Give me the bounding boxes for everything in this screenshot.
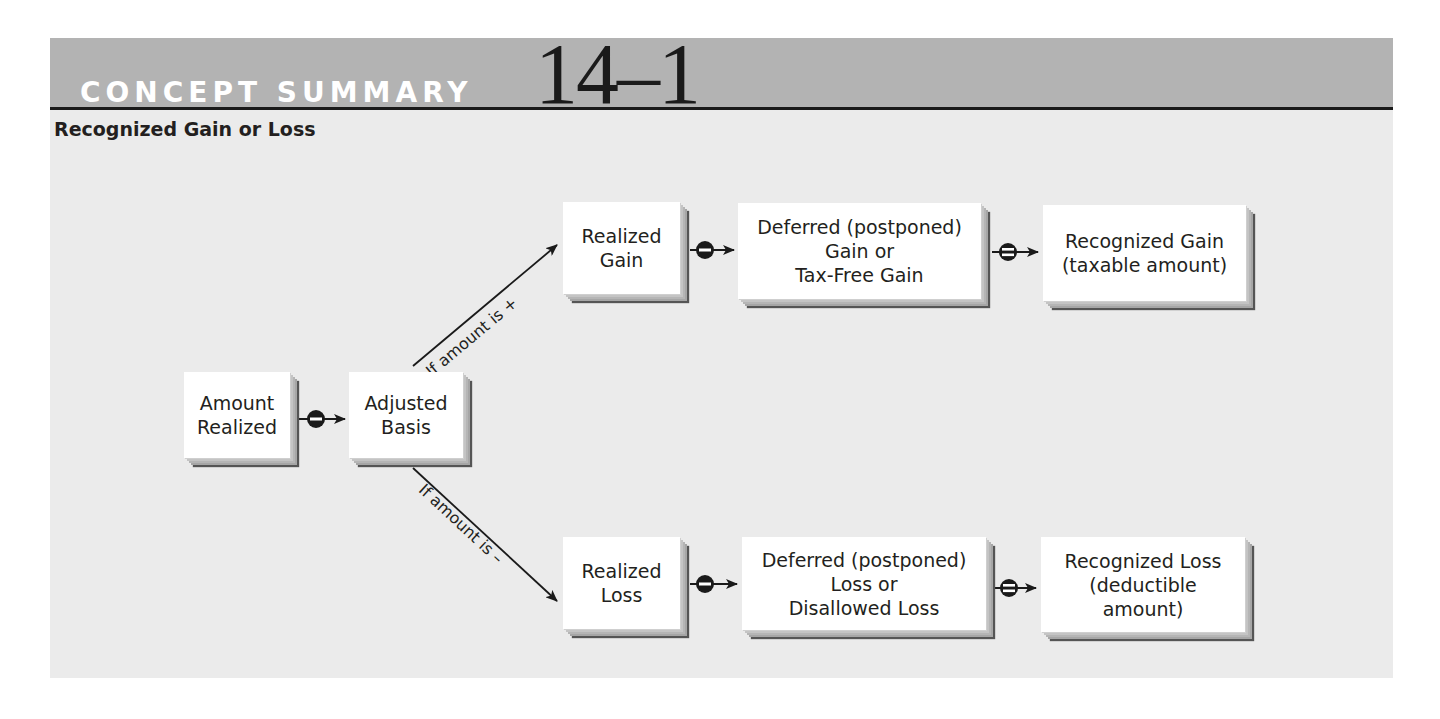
node-recognized-loss: Recognized Loss (deductible amount)	[1041, 537, 1245, 632]
node-deferred-loss: Deferred (postponed) Loss or Disallowed …	[742, 537, 986, 630]
minus-icon	[699, 583, 711, 586]
equals-operator-1	[992, 243, 1038, 261]
node-adjusted-basis: Adjusted Basis	[349, 372, 463, 458]
minus-icon	[310, 418, 322, 421]
node-label: Adjusted Basis	[364, 391, 447, 439]
node-label: Deferred (postponed) Loss or Disallowed …	[762, 548, 967, 620]
equals-icon	[1003, 584, 1015, 587]
node-realized-loss: Realized Loss	[563, 537, 680, 629]
node-label: Deferred (postponed) Gain or Tax-Free Ga…	[757, 215, 962, 287]
minus-icon	[699, 249, 711, 252]
node-deferred-gain: Deferred (postponed) Gain or Tax-Free Ga…	[738, 203, 981, 299]
node-amount-realized: Amount Realized	[184, 372, 290, 458]
equals-operator-2	[995, 579, 1036, 597]
minus-operator-1	[298, 410, 345, 428]
node-label: Recognized Loss (deductible amount)	[1065, 549, 1222, 621]
minus-operator-2	[690, 241, 734, 259]
equals-icon	[1002, 248, 1014, 251]
node-label: Realized Gain	[582, 224, 662, 272]
node-label: Amount Realized	[197, 391, 277, 439]
node-realized-gain: Realized Gain	[563, 202, 680, 294]
node-label: Realized Loss	[582, 559, 662, 607]
minus-operator-3	[690, 575, 737, 593]
node-label: Recognized Gain (taxable amount)	[1062, 229, 1227, 277]
arrow-to-realized-gain	[413, 245, 557, 366]
node-recognized-gain: Recognized Gain (taxable amount)	[1043, 205, 1246, 301]
